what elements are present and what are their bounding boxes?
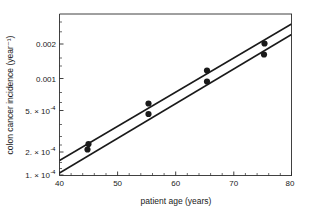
plot-frame	[60, 14, 293, 176]
x-tick-labels: 40 50 60 70 80	[55, 179, 295, 188]
data-point-upper-45	[85, 141, 91, 147]
y-tick-label-0.002: 0.002	[36, 40, 57, 49]
colon-cancer-incidence-scatter-plot: 0.002 0.001 5. × 10 -4 2. × 10 -4 1. × 1…	[0, 0, 311, 211]
x-tick-label-60: 60	[171, 179, 180, 188]
y-axis-title: colon cancer incidence (year⁻¹)	[5, 35, 15, 154]
x-tick-label-40: 40	[55, 179, 64, 188]
y-axis-ticks	[60, 44, 64, 175]
x-tick-label-50: 50	[113, 179, 122, 188]
y-tick-label-2e-4-exponent: -4	[51, 146, 56, 152]
data-point-lower-45	[84, 146, 90, 152]
data-point-lower-75	[261, 51, 267, 57]
y-tick-label-0.001: 0.001	[36, 75, 57, 84]
lower-fit-line	[60, 35, 292, 174]
y-tick-label-1e-4: 1. × 10	[25, 171, 50, 180]
data-point-upper-75	[261, 40, 267, 46]
data-point-upper-55	[145, 100, 151, 106]
data-point-lower-55	[145, 111, 151, 117]
y-tick-labels: 0.002 0.001 5. × 10 -4 2. × 10 -4 1. × 1…	[25, 40, 56, 180]
x-tick-label-80: 80	[286, 179, 295, 188]
x-axis-title: patient age (years)	[141, 196, 212, 206]
plot-data-area	[60, 24, 292, 173]
chart-figure: 0.002 0.001 5. × 10 -4 2. × 10 -4 1. × 1…	[0, 0, 311, 211]
y-tick-label-2e-4: 2. × 10	[25, 148, 50, 157]
x-tick-label-70: 70	[229, 179, 238, 188]
data-point-lower-65	[204, 78, 210, 84]
upper-fit-line	[60, 24, 292, 161]
y-tick-label-5e-4: 5. × 10	[25, 107, 50, 116]
y-tick-label-5e-4-exponent: -4	[51, 105, 56, 111]
y-tick-label-1e-4-exponent: -4	[51, 169, 56, 175]
x-axis-ticks	[60, 172, 292, 176]
data-point-upper-65	[204, 67, 210, 73]
